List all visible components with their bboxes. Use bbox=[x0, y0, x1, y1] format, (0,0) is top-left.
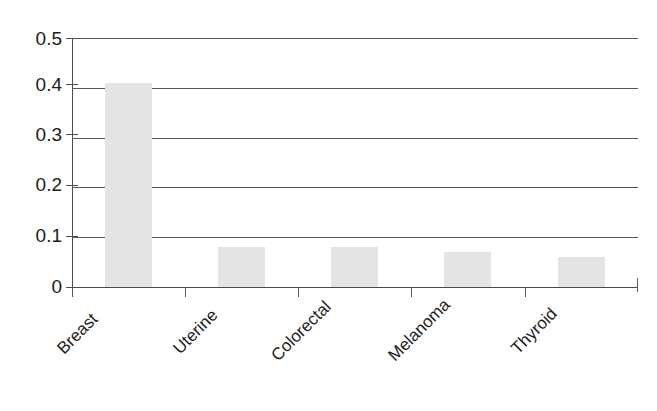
y-axis-label-0.5: 0.5 bbox=[0, 29, 62, 48]
x-axis-label-colorectal: Colorectal bbox=[268, 298, 334, 364]
gridline-0.5 bbox=[72, 38, 638, 39]
gridline-0.3 bbox=[72, 138, 638, 139]
x-axis-label-breast: Breast bbox=[54, 310, 101, 357]
gridline-0.4 bbox=[72, 88, 638, 89]
x-axis-label-thyroid: Thyroid bbox=[508, 305, 560, 357]
bar-uterine bbox=[218, 247, 265, 287]
y-axis-label-0.2: 0.2 bbox=[0, 175, 62, 194]
bar-colorectal bbox=[331, 247, 378, 287]
y-axis-label-0: 0 bbox=[0, 277, 62, 296]
bar-breast bbox=[105, 83, 152, 287]
x-tick-boundary-3 bbox=[411, 288, 412, 297]
x-axis-label-melanoma: Melanoma bbox=[385, 296, 453, 364]
plot-area bbox=[72, 38, 638, 287]
x-tick-boundary-2 bbox=[298, 288, 299, 297]
x-tick-boundary-0 bbox=[72, 288, 73, 297]
y-axis-label-0.4: 0.4 bbox=[0, 75, 62, 94]
y-axis-label-0.3: 0.3 bbox=[0, 125, 62, 144]
x-tick-boundary-1 bbox=[185, 288, 186, 297]
axis-baseline bbox=[72, 287, 638, 288]
gridline-0.2 bbox=[72, 187, 638, 188]
x-tick-boundary-4 bbox=[525, 288, 526, 297]
gridline-0.1 bbox=[72, 237, 638, 238]
x-axis-label-uterine: Uterine bbox=[170, 306, 221, 357]
bar-chart: 0.5 0.4 0.3 0.2 0.1 0 Breast Uterine Col… bbox=[0, 0, 657, 411]
y-axis-label-0.1: 0.1 bbox=[0, 226, 62, 245]
bar-thyroid bbox=[558, 257, 605, 287]
bar-melanoma bbox=[444, 252, 491, 287]
x-tick-boundary-5 bbox=[637, 278, 638, 292]
